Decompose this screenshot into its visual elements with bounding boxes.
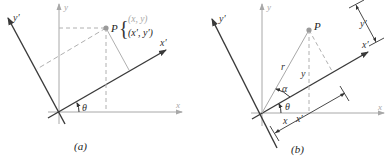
figure-a: y y′ x′ x θ P { (x, y) (x′, y′) (a) — [8, 2, 182, 153]
label-theta: θ — [82, 102, 87, 113]
caption-a: (a) — [74, 140, 87, 153]
dashed-perp — [309, 30, 332, 71]
label-y-b: y — [266, 2, 271, 12]
rotation-diagram: y y′ x′ x θ P { (x, y) (x′, y′) (a) — [0, 0, 386, 160]
label-alpha: α — [282, 83, 288, 94]
theta-arc — [77, 103, 79, 112]
label-y: y — [63, 2, 68, 12]
caption-b: (b) — [291, 143, 304, 156]
label-p: P — [110, 22, 118, 34]
label-x-prime-b: x′ — [361, 39, 369, 50]
label-r: r — [281, 61, 285, 72]
coord-xy-prime: (x′, y′) — [128, 27, 154, 39]
dim-arrow-2 — [340, 93, 345, 97]
label-len-y-prime: y′ — [359, 18, 367, 29]
y-prime-axis — [8, 18, 65, 124]
dim-tick-4 — [369, 38, 384, 46]
label-x: x — [175, 100, 180, 110]
label-y-prime-b: y′ — [218, 13, 226, 24]
y-prime-axis-b — [212, 19, 277, 148]
dashed-proj-yprime — [37, 28, 106, 69]
point-p — [103, 25, 108, 30]
x-prime-axis-b — [252, 52, 368, 119]
label-x-prime: x′ — [159, 37, 167, 48]
figure-b: y y′ x′ x P r y α θ x x′ y′ (b) — [212, 0, 384, 156]
label-y-prime: y′ — [12, 12, 20, 23]
x-prime-axis — [48, 50, 166, 118]
point-p-b — [306, 27, 311, 32]
label-len-x: x — [282, 115, 288, 126]
label-p-b: P — [313, 20, 321, 32]
dim-tick-1 — [270, 126, 279, 141]
label-x-b: x — [377, 102, 382, 112]
label-len-x-prime: x′ — [295, 113, 303, 124]
dim-arrow-1 — [275, 129, 280, 133]
label-len-y: y — [300, 68, 306, 79]
theta-arc-b — [279, 104, 281, 113]
coord-xy: (x, y) — [128, 14, 148, 25]
label-theta-b: θ — [285, 101, 290, 112]
